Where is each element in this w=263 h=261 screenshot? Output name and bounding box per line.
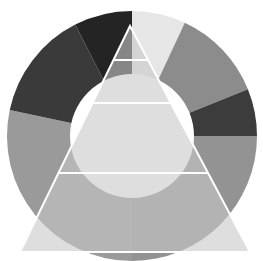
donut-pyramid-diagram (0, 0, 263, 261)
diagram-canvas (0, 0, 263, 261)
